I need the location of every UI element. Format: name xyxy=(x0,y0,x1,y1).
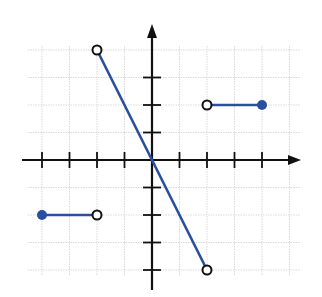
open-point-icon xyxy=(203,101,212,110)
closed-point-icon xyxy=(37,210,47,220)
open-point-icon xyxy=(203,266,212,275)
closed-point-icon xyxy=(257,100,267,110)
y-axis-arrow-icon xyxy=(147,24,157,38)
open-point-icon xyxy=(93,211,102,220)
axes xyxy=(22,24,301,290)
open-point-icon xyxy=(93,46,102,55)
piecewise-function-graph xyxy=(0,0,322,297)
x-axis-arrow-icon xyxy=(288,155,301,165)
